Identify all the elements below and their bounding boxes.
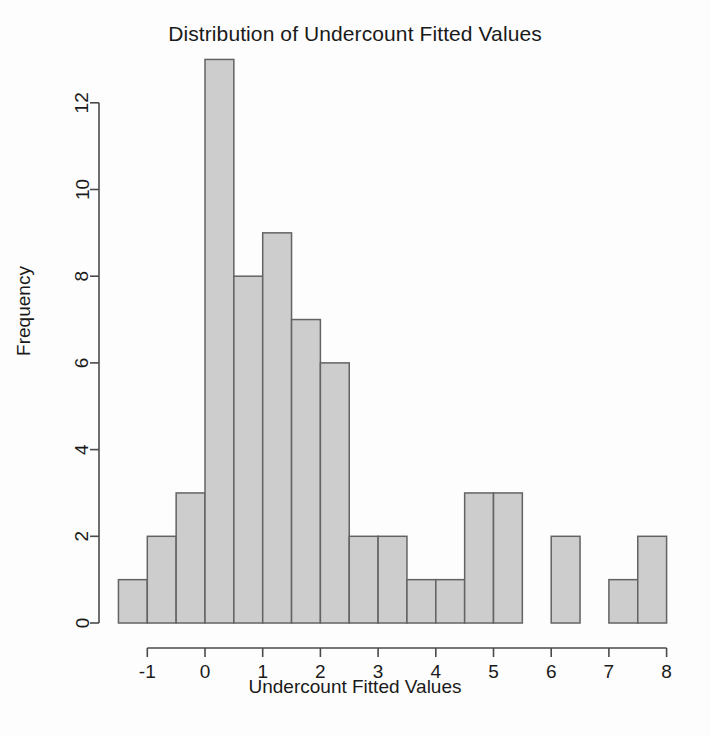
histogram-bars	[118, 59, 666, 623]
histogram-bar	[118, 580, 147, 623]
y-axis-tick-label: 8	[72, 271, 93, 282]
histogram-bar	[494, 493, 523, 623]
x-axis-label: Undercount Fitted Values	[0, 676, 710, 698]
histogram-bar	[349, 536, 378, 623]
y-axis-label: Frequency	[13, 251, 35, 371]
y-axis-tick-label: 12	[72, 92, 93, 113]
y-axis-tick-label: 0	[72, 618, 93, 629]
y-axis-tick-label: 10	[72, 179, 93, 200]
y-axis-tick-label: 4	[72, 444, 93, 455]
histogram-bar	[609, 580, 638, 623]
histogram-bar	[205, 59, 234, 623]
y-axis-tick-label: 2	[72, 531, 93, 542]
histogram-bar	[436, 580, 465, 623]
histogram-bar	[407, 580, 436, 623]
histogram-bar	[147, 536, 176, 623]
histogram-bar	[292, 320, 321, 623]
histogram-bar	[263, 233, 292, 623]
y-axis-tick-label: 6	[72, 358, 93, 369]
plot-canvas: -1012345678 024681012	[0, 0, 710, 737]
y-axis: 024681012	[72, 92, 100, 628]
histogram-bar	[638, 536, 667, 623]
histogram-figure: Distribution of Undercount Fitted Values…	[0, 0, 710, 737]
histogram-bar	[465, 493, 494, 623]
histogram-bar	[234, 276, 263, 623]
histogram-bar	[378, 536, 407, 623]
histogram-bar	[551, 536, 580, 623]
histogram-bar	[320, 363, 349, 623]
histogram-bar	[176, 493, 205, 623]
